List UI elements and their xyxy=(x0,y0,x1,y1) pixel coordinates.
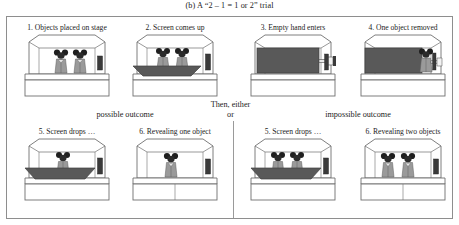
stage-illustration-3 xyxy=(241,34,345,98)
panel-5-left-label: 5. Screen drops … xyxy=(9,127,125,136)
panel-4-stage xyxy=(351,34,455,98)
stage-illustration-4 xyxy=(351,34,455,98)
panel-3-empty-hand-enters: 3. Empty hand enters xyxy=(241,23,345,99)
panel-6-right-stage xyxy=(351,138,455,202)
panel-3-stage xyxy=(241,34,345,98)
figure-caption: (b) A “2 – 1 = 1 or 2” trial xyxy=(0,1,459,10)
panel-5-right-screen-drops: 5. Screen drops … xyxy=(241,127,345,203)
panel-5-left-stage xyxy=(15,138,119,202)
panel-4-one-object-removed: 4. One object removed xyxy=(351,23,455,99)
stage-illustration-2 xyxy=(123,34,227,98)
panel-1-label: 1. Objects placed on stage xyxy=(9,23,125,32)
outcome-divider xyxy=(233,121,234,218)
panel-6-right-label: 6. Revealing two objects xyxy=(345,127,459,136)
panel-1-stage xyxy=(15,34,119,98)
panel-6-left-revealing-one-object: 6. Revealing one object xyxy=(123,127,227,203)
panel-6-left-stage xyxy=(123,138,227,202)
stage-illustration-1 xyxy=(15,34,119,98)
stage-illustration-6-right xyxy=(351,138,455,202)
impossible-outcome-heading: impossible outcome xyxy=(293,110,423,119)
panel-2-screen-comes-up: 2. Screen comes up xyxy=(123,23,227,99)
panel-6-right-revealing-two-objects: 6. Revealing two objects xyxy=(351,127,455,203)
stage-illustration-5-right xyxy=(241,138,345,202)
panel-2-stage xyxy=(123,34,227,98)
panel-4-label: 4. One object removed xyxy=(345,23,459,32)
panel-5-right-label: 5. Screen drops … xyxy=(235,127,351,136)
panel-6-left-label: 6. Revealing one object xyxy=(117,127,233,136)
figure-frame: 1. Objects placed on stage xyxy=(6,16,453,219)
panel-5-left-screen-drops: 5. Screen drops … xyxy=(15,127,119,203)
branch-then-either-label: Then, either xyxy=(1,100,459,109)
panel-1-objects-placed-on-stage: 1. Objects placed on stage xyxy=(15,23,119,99)
possible-outcome-heading: possible outcome xyxy=(65,110,185,119)
panel-2-label: 2. Screen comes up xyxy=(117,23,233,32)
stage-illustration-6-left xyxy=(123,138,227,202)
panel-3-label: 3. Empty hand enters xyxy=(235,23,351,32)
panel-5-right-stage xyxy=(241,138,345,202)
stage-illustration-5-left xyxy=(15,138,119,202)
